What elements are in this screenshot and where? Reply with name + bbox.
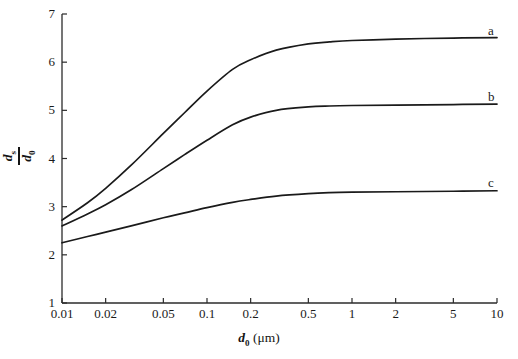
data-curves (62, 38, 497, 243)
y-tick-label: 7 (33, 6, 55, 22)
x-axis-ticks (62, 298, 497, 303)
y-axis-num-symbol: d (0, 154, 15, 161)
x-axis-title: d0 (μm) (0, 330, 518, 348)
y-tick-label: 2 (33, 247, 55, 263)
y-axis-den-subscript: 0 (27, 150, 37, 155)
y-tick-label: 6 (33, 54, 55, 70)
curve-label-a: a (488, 23, 494, 39)
x-tick-label: 0.5 (300, 306, 316, 322)
x-tick-label: 0.2 (243, 306, 259, 322)
x-tick-label: 5 (450, 306, 457, 322)
y-tick-label: 5 (33, 102, 55, 118)
y-axis-ticks (62, 14, 67, 303)
x-tick-label: 0.05 (152, 306, 175, 322)
curve-label-c: c (488, 175, 494, 191)
plot-area (0, 0, 518, 359)
x-tick-label: 0.02 (94, 306, 117, 322)
x-tick-label: 1 (349, 306, 356, 322)
curve-c (62, 191, 497, 243)
x-axis-title-units: (μm) (250, 330, 280, 345)
curve-label-b: b (488, 89, 495, 105)
y-axis-title-fraction: ds d0 (1, 147, 37, 165)
x-tick-label: 0.1 (199, 306, 215, 322)
x-tick-label: 10 (491, 306, 504, 322)
y-tick-label: 3 (33, 199, 55, 215)
y-axis-title: ds d0 (0, 139, 44, 173)
chart-figure: 0.010.020.050.10.20.512510 1234567 abc d… (0, 0, 518, 359)
curve-b (62, 104, 497, 226)
y-axis-title-numerator: ds (1, 149, 18, 163)
y-axis-den-symbol: d (19, 155, 34, 162)
y-axis-title-denominator: d0 (20, 148, 37, 163)
x-tick-label: 2 (392, 306, 399, 322)
y-tick-label: 1 (33, 295, 55, 311)
y-axis-num-subscript: s (8, 151, 18, 155)
